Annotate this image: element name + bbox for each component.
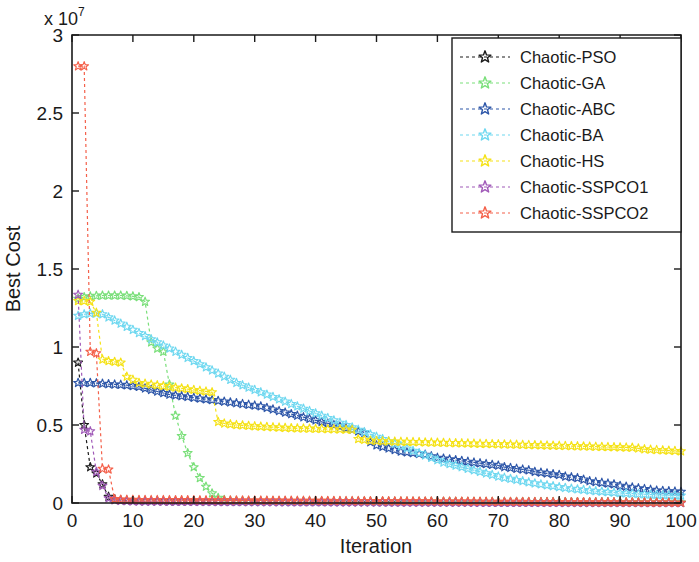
x-tick-label: 50 <box>366 510 387 531</box>
x-tick-label: 40 <box>305 510 326 531</box>
x-tick-label: 100 <box>665 510 697 531</box>
legend-label: Chaotic-SSPCO1 <box>520 178 648 196</box>
y-exponent-annotation: x 10 7 <box>44 5 85 29</box>
legend-layer: Chaotic-PSOChaotic-GAChaotic-ABCChaotic-… <box>452 38 681 232</box>
legend-label: Chaotic-GA <box>520 74 605 92</box>
x-tick-label: 20 <box>183 510 204 531</box>
x-tick-label: 60 <box>427 510 448 531</box>
best-cost-convergence-chart: 010203040506070809010000.511.522.53 Chao… <box>0 0 699 562</box>
legend-label: Chaotic-PSO <box>520 48 616 66</box>
x-axis-title: Iteration <box>340 535 412 557</box>
y-axis-title: Best Cost <box>2 225 24 312</box>
legend-label: Chaotic-ABC <box>520 100 615 118</box>
x-tick-label: 70 <box>488 510 509 531</box>
legend-label: Chaotic-SSPCO2 <box>520 204 648 222</box>
x-tick-label: 30 <box>244 510 265 531</box>
legend-label: Chaotic-HS <box>520 152 604 170</box>
y-tick-label: 0 <box>52 493 63 514</box>
y-tick-label: 0.5 <box>37 415 63 436</box>
legend-label: Chaotic-BA <box>520 126 603 144</box>
y-exponent-power: 7 <box>78 5 85 19</box>
x-tick-label: 90 <box>610 510 631 531</box>
y-tick-label: 1.5 <box>37 259 63 280</box>
y-exponent-mantissa: x 10 <box>44 9 78 29</box>
x-tick-label: 10 <box>122 510 143 531</box>
x-tick-label: 0 <box>67 510 78 531</box>
y-tick-label: 2 <box>52 181 63 202</box>
x-tick-label: 80 <box>549 510 570 531</box>
y-tick-label: 2.5 <box>37 103 63 124</box>
y-tick-label: 1 <box>52 337 63 358</box>
chart-root: 010203040506070809010000.511.522.53 Chao… <box>0 0 699 562</box>
